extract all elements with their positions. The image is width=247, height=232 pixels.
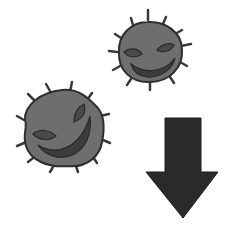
small-germ-icon — [109, 10, 191, 90]
large-germ-icon — [17, 82, 110, 172]
illustration — [0, 0, 247, 232]
arrow-down-icon — [146, 118, 218, 218]
